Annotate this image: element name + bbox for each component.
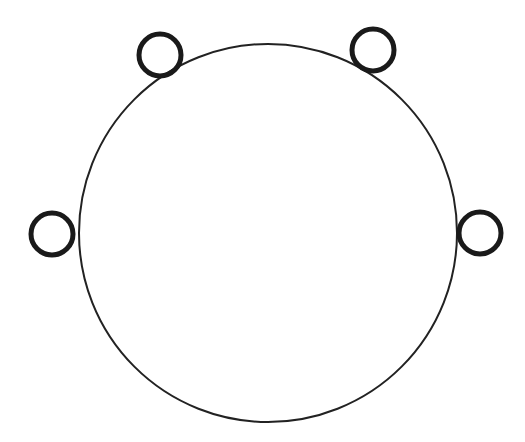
small-circle-top-left xyxy=(139,34,181,76)
small-circle-top-right xyxy=(352,29,394,71)
diagram-canvas xyxy=(0,0,525,442)
small-circle-right xyxy=(459,212,501,254)
main-circle xyxy=(79,44,457,422)
small-circle-left xyxy=(31,213,73,255)
